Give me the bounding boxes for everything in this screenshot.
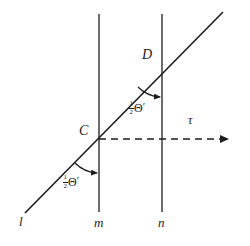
line-label-m: m — [94, 216, 103, 229]
theta-symbol: Θ — [134, 102, 143, 114]
fraction-numerator: 1 — [63, 174, 68, 181]
point-label-c: C — [79, 124, 88, 138]
line-label-l: l — [19, 215, 23, 228]
prime-symbol: ′ — [143, 101, 145, 112]
angle-label-at-d: 1 2 Θ ′ — [129, 100, 145, 116]
theta-symbol: Θ — [68, 176, 77, 188]
fraction-denominator: 2 — [63, 183, 68, 190]
line-l-transversal — [25, 12, 223, 213]
fraction-numerator: 1 — [129, 100, 134, 107]
half-fraction: 1 2 — [129, 100, 134, 116]
half-fraction: 1 2 — [63, 174, 68, 190]
point-label-d: D — [142, 48, 152, 62]
line-label-n: n — [158, 216, 165, 229]
angle-arc-at-c — [75, 163, 97, 173]
tau-label: τ — [188, 114, 192, 126]
prime-symbol: ′ — [77, 175, 79, 186]
geometry-figure: C D l m n τ 1 2 Θ ′ 1 2 Θ ′ — [0, 0, 250, 246]
fraction-denominator: 2 — [129, 109, 134, 116]
figure-canvas — [0, 0, 250, 246]
angle-label-at-c: 1 2 Θ ′ — [63, 174, 79, 190]
